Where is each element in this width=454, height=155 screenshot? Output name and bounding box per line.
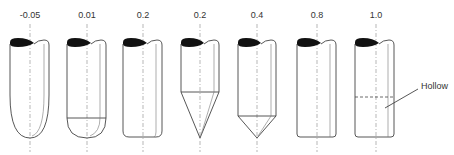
cap-icon-6 [297, 38, 321, 47]
hollow-annotation: Hollow [421, 81, 449, 91]
cap-icon-5 [238, 38, 261, 47]
body-highlight-4 [201, 44, 214, 135]
column-label-1: -0.05 [20, 10, 41, 20]
cap-icon-2 [67, 38, 91, 47]
column-label-7: 1.0 [370, 10, 383, 20]
shape-column-7: 1.0 Hollow [355, 10, 449, 152]
nose-shapes-diagram: -0.05 0.01 0.2 0.2 0.4 [0, 0, 454, 155]
shape-column-3: 0.2 [123, 10, 162, 152]
body-highlight-5 [258, 44, 271, 136]
column-label-3: 0.2 [137, 10, 150, 20]
cap-icon-3 [123, 38, 147, 47]
body-outline-1 [10, 40, 49, 138]
shape-column-1: -0.05 [10, 10, 49, 152]
hollow-leader-line [385, 89, 418, 108]
body-highlight-2 [90, 44, 100, 136]
body-highlight-1 [32, 44, 44, 136]
column-label-4: 0.2 [194, 10, 207, 20]
column-label-5: 0.4 [251, 10, 264, 20]
shape-column-4: 0.2 [181, 10, 219, 152]
column-label-6: 0.8 [311, 10, 324, 20]
cap-icon-4 [181, 38, 204, 47]
shape-column-2: 0.01 [67, 10, 106, 152]
shape-column-6: 0.8 [297, 10, 336, 152]
cap-icon-7 [355, 38, 379, 47]
cap-icon-1 [10, 38, 34, 47]
body-highlight-3 [154, 44, 156, 137]
shape-column-5: 0.4 [238, 10, 276, 152]
column-label-2: 0.01 [78, 10, 96, 20]
